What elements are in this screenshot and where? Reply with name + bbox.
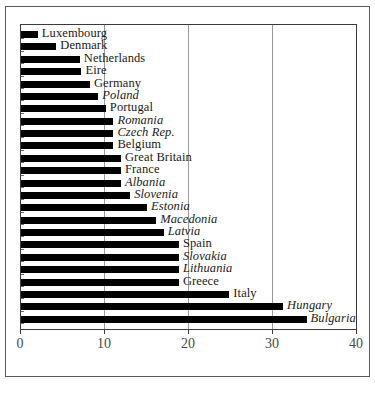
bar-bulgaria	[21, 316, 307, 323]
bar-estonia	[21, 204, 147, 211]
bar-eire	[21, 68, 81, 75]
bar-france	[21, 167, 121, 174]
bar-label: Bulgaria	[311, 311, 356, 326]
bar-lithuania	[21, 266, 179, 273]
x-tick-0	[20, 330, 21, 334]
chart-figure: LuxembourgDenmarkNetherlandsEireGermanyP…	[0, 0, 375, 394]
x-tick-label-30: 30	[265, 336, 279, 352]
bar-poland	[21, 93, 98, 100]
bar-albania	[21, 180, 121, 187]
axis-frame-right	[356, 24, 357, 330]
bar-greece	[21, 279, 179, 286]
bar-macedonia	[21, 217, 156, 224]
bar-czech-rep	[21, 130, 113, 137]
bar-germany	[21, 81, 90, 88]
x-tick-20	[188, 330, 189, 334]
bar-slovakia	[21, 254, 179, 261]
x-tick-label-10: 10	[97, 336, 111, 352]
bar-luxembourg	[21, 31, 38, 38]
bar-romania	[21, 118, 113, 125]
x-tick-10	[104, 330, 105, 334]
bar-belgium	[21, 142, 113, 149]
bar-great-britain	[21, 155, 121, 162]
x-tick-label-20: 20	[181, 336, 195, 352]
bar-latvia	[21, 229, 164, 236]
bar-netherlands	[21, 56, 80, 63]
bar-slovenia	[21, 192, 130, 199]
bar-denmark	[21, 43, 56, 50]
x-tick-30	[272, 330, 273, 334]
bar-row: Bulgaria	[21, 312, 356, 327]
x-tick-label-40: 40	[349, 336, 363, 352]
bar-spain	[21, 241, 179, 248]
x-tick-label-0: 0	[17, 336, 24, 352]
bar-portugal	[21, 105, 106, 112]
x-tick-40	[356, 330, 357, 334]
bar-hungary	[21, 303, 283, 310]
plot-area: LuxembourgDenmarkNetherlandsEireGermanyP…	[20, 24, 357, 330]
bar-italy	[21, 291, 229, 298]
